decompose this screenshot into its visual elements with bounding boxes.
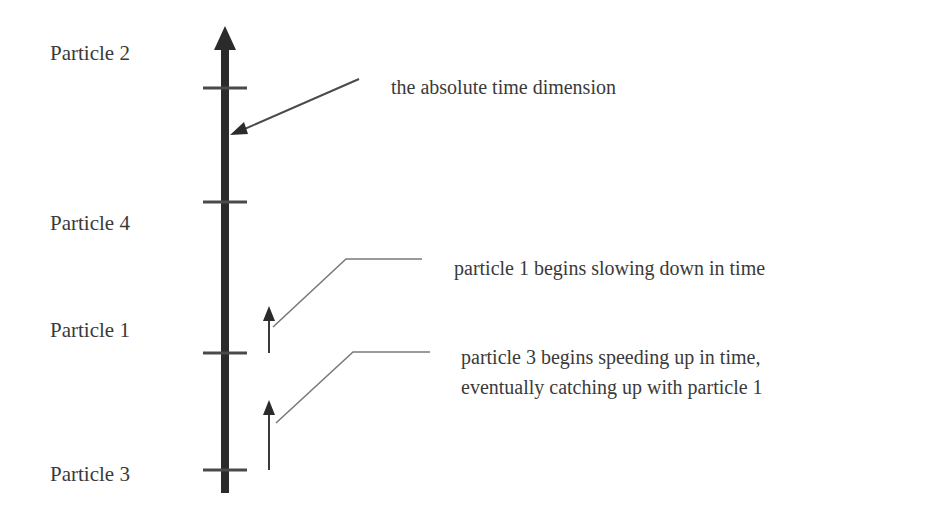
axis-pointer-arrow	[230, 79, 359, 135]
particle-1-arrowhead-icon	[263, 306, 275, 321]
particle-3-annotation-line1: particle 3 begins speeding up in time,	[461, 345, 760, 369]
particle-3-arrowhead-icon	[263, 400, 275, 415]
label-particle-4: Particle 4	[50, 211, 130, 236]
label-particle-2: Particle 2	[50, 41, 130, 66]
particle-3-annotation-line2: eventually catching up with particle 1	[461, 375, 763, 399]
absolute-time-axis	[214, 26, 236, 493]
label-particle-1: Particle 1	[50, 318, 130, 343]
label-particle-3: Particle 3	[50, 462, 130, 487]
axis-arrowhead-icon	[214, 26, 236, 50]
particle-1-arrow	[263, 306, 275, 353]
particle-1-leader-line	[273, 259, 422, 327]
particle-3-arrow	[263, 400, 275, 470]
particle-1-annotation: particle 1 begins slowing down in time	[454, 256, 765, 280]
pointer-arrowhead-icon	[230, 122, 248, 135]
axis-annotation: the absolute time dimension	[391, 75, 616, 99]
particle-3-leader-line	[276, 352, 430, 423]
